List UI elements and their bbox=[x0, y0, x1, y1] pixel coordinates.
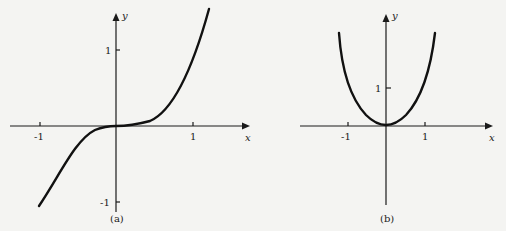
y-arrow-icon bbox=[383, 14, 390, 22]
x-tick-label: 1 bbox=[422, 131, 428, 142]
panel-b: -1 1 1 x y (b) bbox=[300, 10, 495, 224]
curve-cubic bbox=[39, 9, 209, 206]
y-arrow-icon bbox=[113, 13, 120, 21]
x-axis-label: x bbox=[489, 132, 495, 143]
x-tick-label: -1 bbox=[34, 131, 44, 142]
x-tick-label: -1 bbox=[341, 131, 351, 142]
x-arrow-icon bbox=[485, 123, 493, 130]
x-tick-label: 1 bbox=[190, 131, 196, 142]
figure: -1 1 1 -1 x y (a) -1 1 1 x y (b) bbox=[0, 0, 506, 231]
panel-caption: (b) bbox=[380, 213, 394, 224]
panel-caption: (a) bbox=[110, 213, 124, 224]
x-axis-label: x bbox=[245, 132, 251, 143]
y-tick-label: -1 bbox=[100, 197, 110, 208]
panel-a: -1 1 1 -1 x y (a) bbox=[10, 9, 251, 224]
y-tick-label: 1 bbox=[375, 83, 381, 94]
y-axis-label: y bbox=[121, 10, 128, 21]
y-tick-label: 1 bbox=[105, 45, 111, 56]
y-axis-label: y bbox=[391, 10, 398, 21]
x-arrow-icon bbox=[242, 123, 250, 130]
curve-quartic bbox=[339, 33, 435, 125]
